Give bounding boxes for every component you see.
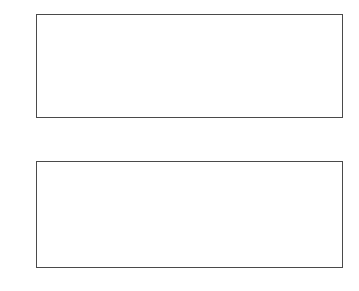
- bottom-subplot: [0, 145, 359, 291]
- top-subplot-axes: [36, 14, 343, 118]
- matlab-figure: [0, 0, 359, 291]
- top-subplot: [0, 0, 359, 145]
- bottom-subplot-axes: [36, 161, 343, 268]
- bottom-subplot-canvas: [37, 162, 342, 267]
- top-subplot-canvas: [37, 15, 342, 117]
